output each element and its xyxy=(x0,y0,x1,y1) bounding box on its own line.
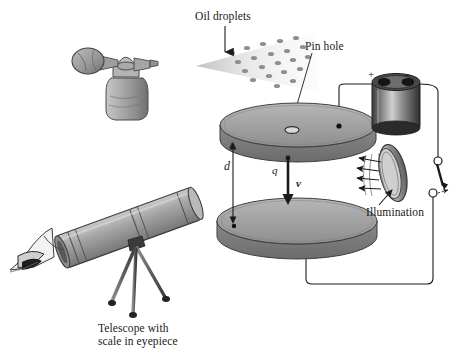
charge-label: q xyxy=(272,164,278,177)
velocity-label: v xyxy=(296,177,301,190)
knife-switch[interactable] xyxy=(429,157,448,197)
telescope-caption: Telescope withscale in eyepiece xyxy=(98,322,178,348)
plate-separation-label: d xyxy=(224,160,230,174)
telescope-caption-line1: Telescope with xyxy=(98,322,169,334)
top-capacitor-plate xyxy=(220,103,376,162)
top-plate-terminal xyxy=(336,123,341,128)
oil-droplets-label: Oil droplets xyxy=(195,10,251,23)
pin-hole-label: Pin hole xyxy=(305,40,344,53)
pin-hole-opening xyxy=(285,127,299,134)
battery-positive-label: + xyxy=(368,68,374,81)
illumination-label: Illumination xyxy=(366,206,424,219)
telescope-on-tripod xyxy=(52,186,206,318)
bottom-capacitor-plate xyxy=(217,198,377,259)
millikan-apparatus-illustration xyxy=(0,0,466,360)
oil-spray-cone xyxy=(196,33,318,92)
atomizer-sprayer xyxy=(72,48,158,120)
battery-negative-label: – xyxy=(404,68,410,82)
telescope-caption-line2: scale in eyepiece xyxy=(98,335,178,347)
battery-cell xyxy=(372,74,420,136)
light-rays xyxy=(357,154,381,196)
figure-canvas: Oil droplets Pin hole Illumination Teles… xyxy=(0,0,466,360)
